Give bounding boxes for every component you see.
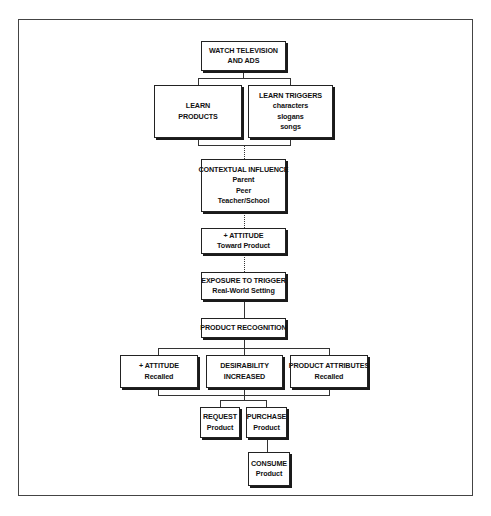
node-exposure-to-trigger: EXPOSURE TO TRIGGER Real-World Setting xyxy=(201,272,286,300)
node-desirability-increased: DESIRABILITY INCREASED xyxy=(206,355,283,388)
node-line: DESIRABILITY xyxy=(220,361,269,372)
node-line: songs xyxy=(280,122,301,133)
connector xyxy=(220,400,267,401)
node-line: PRODUCT RECOGNITION xyxy=(200,323,286,334)
node-line: AND ADS xyxy=(228,56,260,67)
node-line: LEARN TRIGGERS xyxy=(259,91,322,102)
node-line: EXPOSURE TO TRIGGER xyxy=(201,276,286,287)
node-product-recognition: PRODUCT RECOGNITION xyxy=(201,318,286,338)
node-learn-products: LEARN PRODUCTS xyxy=(154,85,242,138)
node-line: INCREASED xyxy=(224,372,265,383)
connector xyxy=(329,388,330,395)
dotted-connector xyxy=(244,255,245,272)
node-line: Teacher/School xyxy=(218,196,270,207)
node-line: WATCH TELEVISION xyxy=(209,46,278,57)
node-learn-triggers: LEARN TRIGGERS characters slogans songs xyxy=(248,85,333,138)
node-consume-product: CONSUME Product xyxy=(248,452,290,486)
node-contextual-influence: CONTEXTUAL INFLUENCE Parent Peer Teacher… xyxy=(201,159,286,212)
node-line: Peer xyxy=(236,186,251,197)
node-line: Toward Product xyxy=(217,241,270,252)
connector xyxy=(244,388,245,400)
connector xyxy=(244,348,245,355)
node-line: PURCHASE xyxy=(247,412,287,423)
node-line: PRODUCTS xyxy=(178,112,218,123)
node-purchase-product: PURCHASE Product xyxy=(246,407,287,438)
node-watch-tv: WATCH TELEVISION AND ADS xyxy=(201,41,286,71)
node-line: Real-World Setting xyxy=(212,286,274,297)
node-line: Parent xyxy=(233,175,255,186)
node-line: Product xyxy=(253,423,279,434)
dotted-connector xyxy=(244,146,245,159)
connector xyxy=(266,400,267,407)
node-line: Product xyxy=(207,423,233,434)
connector xyxy=(267,438,268,452)
connector xyxy=(329,348,330,355)
node-attitude-toward-product: + ATTITUDE Toward Product xyxy=(201,228,286,254)
node-product-attributes: PRODUCT ATTRIBUTES Recalled xyxy=(290,355,368,388)
connector xyxy=(243,71,244,78)
node-request-product: REQUEST Product xyxy=(200,407,240,438)
dotted-connector xyxy=(244,213,245,228)
connector xyxy=(158,348,159,355)
node-attitude-recalled: + ATTITUDE Recalled xyxy=(120,355,198,388)
connector xyxy=(198,78,199,85)
node-line: Product xyxy=(256,469,282,480)
node-line: REQUEST xyxy=(203,412,237,423)
node-line: + ATTITUDE xyxy=(139,361,179,372)
node-line: characters xyxy=(273,101,308,112)
connector xyxy=(290,138,291,145)
node-line: PRODUCT ATTRIBUTES xyxy=(289,361,369,372)
node-line: + ATTITUDE xyxy=(224,231,264,242)
connector xyxy=(244,338,245,348)
node-line: CONSUME xyxy=(251,459,287,470)
connector xyxy=(220,400,221,407)
node-line: CONTEXTUAL INFLUENCE xyxy=(198,165,288,176)
connector xyxy=(198,78,291,79)
connector xyxy=(244,300,245,318)
node-line: slogans xyxy=(277,112,303,123)
connector xyxy=(290,78,291,85)
node-line: Recalled xyxy=(145,372,174,383)
connector xyxy=(158,388,159,395)
node-line: LEARN xyxy=(186,101,210,112)
node-line: Recalled xyxy=(315,372,344,383)
connector xyxy=(198,138,199,145)
